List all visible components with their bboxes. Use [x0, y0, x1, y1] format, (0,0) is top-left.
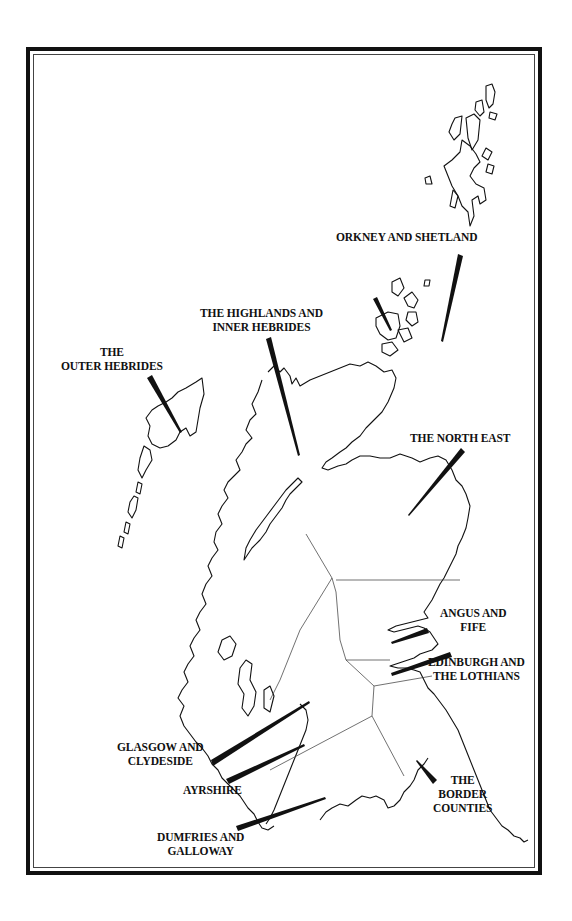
label-highlands: THE HIGHLANDS AND INNER HEBRIDES — [200, 306, 323, 334]
label-angus-fife: ANGUS AND FIFE — [440, 606, 507, 634]
label-ayrshire: AYRSHIRE — [183, 783, 242, 797]
label-edinburgh-lothians: EDINBURGH AND THE LOTHIANS — [428, 655, 525, 683]
label-glasgow-clydeside: GLASGOW AND CLYDESIDE — [117, 740, 204, 768]
shetland-islands — [425, 84, 497, 226]
label-dumfries-galloway: DUMFRIES AND GALLOWAY — [157, 830, 244, 858]
label-border-counties: THE BORDER COUNTIES — [433, 773, 492, 815]
outer-hebrides-islands — [118, 378, 204, 548]
label-orkney-shetland: ORKNEY AND SHETLAND — [336, 230, 477, 244]
label-north-east: THE NORTH EAST — [410, 431, 510, 445]
label-outer-hebrides: THE OUTER HEBRIDES — [61, 345, 163, 373]
